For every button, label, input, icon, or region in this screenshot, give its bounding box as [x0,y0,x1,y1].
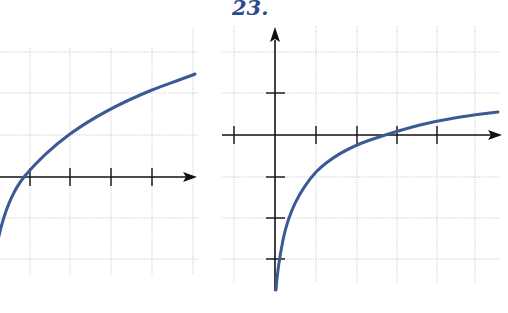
left-graph [0,28,198,275]
right-y-axis-arrow-icon [270,27,280,42]
left-curve [0,74,195,240]
right-curve [276,112,498,290]
left-grid [0,28,198,275]
right-grid [222,26,500,283]
right-graph [222,26,502,291]
